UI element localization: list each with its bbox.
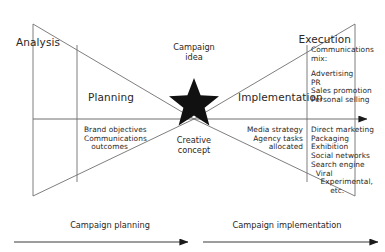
bottom-label-campaign-planning: Campaign planning: [50, 221, 170, 231]
planning-details-list: Brand objectives Communications outcomes: [84, 126, 147, 152]
stage-label-planning: Planning: [88, 91, 134, 103]
star-icon: [169, 78, 219, 126]
campaign-idea-label: Campaign idea: [150, 43, 238, 62]
bottom-label-campaign-implementation: Campaign implementation: [212, 221, 362, 231]
stage-label-analysis: Analysis: [16, 36, 60, 48]
stage-label-execution: Execution: [237, 33, 351, 45]
campaign-planning-diagram: Analysis Planning Implementation Executi…: [0, 0, 385, 252]
communications-mix-items: Advertising PR Sales promotion Personal …: [311, 70, 372, 105]
execution-channels-list: Direct marketing Packaging Exhibition So…: [311, 126, 374, 196]
communications-mix-heading: Communications mix:: [311, 46, 374, 63]
implementation-details-list: Media strategy Agency tasks allocated: [198, 126, 303, 152]
